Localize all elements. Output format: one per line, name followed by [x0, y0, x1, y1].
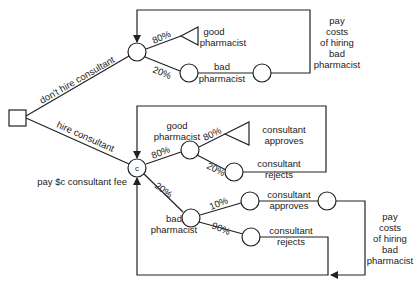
good-label-top-2: pharmacist	[200, 37, 247, 48]
consultant-fee-label: pay $c consultant fee	[37, 176, 127, 187]
terminal-circle-bad-approves	[318, 192, 336, 210]
hire-label: hire consultant	[55, 119, 116, 154]
good-label-hire-2: pharmacist	[154, 131, 201, 142]
chance-node-dont-hire	[128, 43, 146, 61]
prob-rejects-bad: 90%	[210, 220, 232, 238]
approves-label-bad-1: consultant	[267, 189, 311, 200]
prob-bad-hire: 20%	[153, 180, 175, 200]
chance-node-bad-approves	[241, 192, 259, 210]
bad-label-top-2: pharmacist	[199, 73, 246, 84]
prob-rejects-good: 20%	[205, 160, 227, 178]
prob-good-hire: 80%	[150, 143, 172, 161]
rejects-label-good-1: consultant	[257, 158, 301, 169]
decision-node	[9, 110, 26, 126]
svg-text:of hiring: of hiring	[373, 233, 407, 244]
good-label-top-1: good	[203, 26, 224, 37]
chance-node-bad-outcome	[180, 64, 198, 82]
svg-text:bad: bad	[329, 48, 345, 59]
rejects-label-bad-1: consultant	[269, 225, 313, 236]
terminal-triangle-good	[181, 27, 198, 45]
svg-text:of hiring: of hiring	[320, 37, 354, 48]
loop-note-top: pay costs of hiring bad pharmacist	[314, 15, 361, 70]
bad-label-top-1: bad	[214, 61, 230, 72]
terminal-triangle-approves	[225, 122, 249, 145]
loop-note-bottom: pay costs of hiring bad pharmacist	[367, 211, 414, 266]
rejects-label-bad-2: rejects	[277, 236, 305, 247]
hire-branch	[26, 118, 129, 164]
hire-node-label: c	[135, 164, 139, 173]
good-label-hire-1: good	[166, 120, 187, 131]
approves-label-good-2: approves	[264, 135, 303, 146]
svg-text:pay: pay	[329, 15, 345, 26]
approves-label-bad-2: approves	[269, 200, 308, 211]
svg-text:bad: bad	[382, 244, 398, 255]
loop-arrow-bad-approves	[331, 201, 365, 275]
chance-node-bad-rejects	[242, 228, 260, 246]
dont-hire-label: don't hire consultant	[38, 54, 117, 106]
svg-text:costs: costs	[326, 26, 348, 37]
terminal-circle-bad	[253, 64, 271, 82]
approves-label-good-1: consultant	[262, 124, 306, 135]
svg-text:pay: pay	[382, 211, 398, 222]
chance-node-good-pharmacist	[181, 141, 199, 159]
svg-text:pharmacist: pharmacist	[367, 255, 414, 266]
svg-text:costs: costs	[379, 222, 401, 233]
dont-hire-branch	[26, 56, 129, 116]
rejects-label-good-2: rejects	[265, 169, 293, 180]
svg-text:pharmacist: pharmacist	[314, 59, 361, 70]
terminal-circle-good-rejects	[225, 163, 243, 181]
prob-bad-top: 20%	[151, 64, 173, 82]
decision-tree-diagram: don't hire consultant hire consultant 80…	[0, 0, 419, 281]
bad-label-hire-1: bad	[166, 213, 182, 224]
bad-label-hire-2: pharmacist	[151, 224, 198, 235]
